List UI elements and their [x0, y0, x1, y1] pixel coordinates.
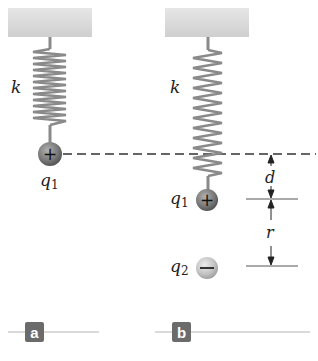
spring-charge-diagram: k + q1 k + q1 q2 d [0, 0, 318, 361]
ceiling-a [8, 8, 92, 37]
plus-icon-b: + [200, 190, 214, 210]
charge-label-q1-b: q1 [170, 188, 189, 210]
spring-constant-label-a: k [11, 77, 21, 97]
arrow-down-icon [268, 257, 274, 265]
distance-label-r: r [266, 223, 275, 242]
charge-label-q2-b: q2 [170, 256, 189, 278]
plus-icon-a: + [43, 144, 57, 164]
distance-label-d: d [265, 168, 275, 187]
panel-tag-b-label: b [177, 324, 186, 341]
arrow-up-icon [268, 155, 274, 163]
spring-constant-label-b: k [170, 77, 180, 97]
charge-label-q1-a: q1 [40, 170, 59, 192]
panel-b: k + q1 q2 d r [165, 8, 298, 279]
panel-tag-a: a [8, 322, 99, 342]
panel-tag-b: b [155, 322, 310, 342]
ceiling-b [165, 8, 249, 37]
spring-b [193, 50, 222, 176]
arrow-down-icon [268, 190, 274, 198]
panel-tag-a-label: a [30, 324, 39, 341]
spring-a [33, 49, 66, 125]
panel-a: k + q1 [8, 8, 92, 192]
